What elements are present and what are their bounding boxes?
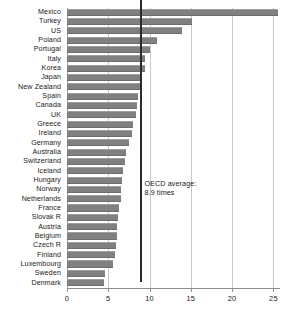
bar [67,232,117,239]
bar-row [67,64,280,73]
x-axis-tick [273,288,274,292]
bar [67,83,140,90]
bar-row [67,279,280,288]
bar [67,55,145,62]
x-axis-tick [108,288,109,292]
bar [67,9,278,16]
category-label: US [0,27,64,36]
bar-row [67,17,280,26]
x-axis-tick-label: 10 [145,294,154,303]
bar [67,37,157,44]
bar-row [67,251,280,260]
bar-row [67,148,280,157]
x-axis-tick-label: 5 [106,294,110,303]
category-label: Sweden [0,269,64,278]
category-label: Austria [0,223,64,232]
bar [67,279,104,286]
bar-row [67,101,280,110]
category-label: Switzerland [0,157,64,166]
category-label: Luxembourg [0,260,64,269]
bar [67,242,116,249]
category-label: Poland [0,36,64,45]
bar-row [67,36,280,45]
bar [67,149,126,156]
category-label: Australia [0,148,64,157]
bar-series [67,8,280,288]
bar-row [67,167,280,176]
category-axis-labels: MexicoTurkeyUSPolandPortugalItalyKoreaJa… [0,8,64,288]
bar-row [67,213,280,222]
x-axis-tick [232,288,233,292]
bar [67,223,117,230]
bar [67,139,129,146]
bar-chart: MexicoTurkeyUSPolandPortugalItalyKoreaJa… [0,0,308,316]
bar [67,130,132,137]
category-label: Turkey [0,17,64,26]
category-label: Korea [0,64,64,73]
bar [67,204,119,211]
bar-row [67,8,280,17]
bar [67,270,105,277]
x-axis: 0510152025 [67,288,280,289]
category-label: New Zealand [0,83,64,92]
bar [67,260,113,267]
bar [67,18,192,25]
x-axis-tick-label: 15 [187,294,196,303]
bar-row [67,232,280,241]
oecd-average-line [140,0,142,282]
bar [67,93,138,100]
bar-row [67,73,280,82]
bar [67,195,121,202]
category-label: Czech R [0,241,64,250]
category-label: Netherlands [0,195,64,204]
bar-row [67,260,280,269]
bar [67,214,118,221]
category-label: Canada [0,101,64,110]
bar [67,177,122,184]
bar [67,121,133,128]
category-label: Japan [0,73,64,82]
bar [67,27,182,34]
category-label: Mexico [0,8,64,17]
bar-row [67,129,280,138]
bar-row [67,223,280,232]
bar-row [67,204,280,213]
category-label: Slovak R [0,213,64,222]
bar-row [67,139,280,148]
bar [67,102,137,109]
bar [67,158,125,165]
bar [67,186,121,193]
category-label: Norway [0,185,64,194]
category-label: Portugal [0,45,64,54]
category-label: UK [0,111,64,120]
category-label: Hungary [0,176,64,185]
bar [67,65,145,72]
x-axis-tick-label: 0 [65,294,69,303]
bar-row [67,83,280,92]
category-label: Italy [0,55,64,64]
x-axis-tick-label: 25 [269,294,278,303]
bar [67,167,123,174]
category-label: Ireland [0,129,64,138]
bar-row [67,45,280,54]
category-label: Finland [0,251,64,260]
bar-row [67,92,280,101]
bar-row [67,269,280,278]
category-label: Belgium [0,232,64,241]
bar-row [67,55,280,64]
bar [67,46,150,53]
x-axis-tick [191,288,192,292]
x-axis-tick [150,288,151,292]
bar-row [67,241,280,250]
plot-area: OECD average: 8.9 times [67,8,280,288]
oecd-average-line2: 8.9 times [144,189,196,198]
bar [67,251,115,258]
x-axis-tick-label: 20 [228,294,237,303]
category-label: France [0,204,64,213]
oecd-average-annotation: OECD average: 8.9 times [144,180,196,197]
category-label: Greece [0,120,64,129]
bar [67,74,140,81]
category-label: Spain [0,92,64,101]
x-axis-tick [67,288,68,292]
bar-row [67,157,280,166]
